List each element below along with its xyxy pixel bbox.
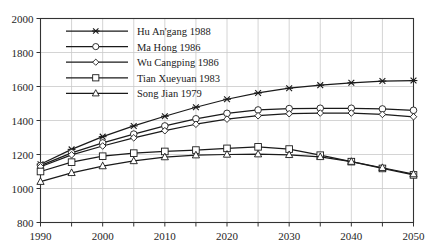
x-tick-label: 2040 bbox=[340, 230, 363, 242]
y-tick-label: 1600 bbox=[12, 81, 35, 93]
y-tick-label: 2000 bbox=[12, 13, 35, 25]
chart-background bbox=[0, 0, 425, 250]
marker-square bbox=[99, 153, 106, 160]
x-tick-label: 2000 bbox=[92, 230, 115, 242]
x-tick-label: 2030 bbox=[278, 230, 301, 242]
legend-label: Tian Xueyuan 1983 bbox=[137, 73, 220, 84]
marker-circle bbox=[93, 44, 99, 50]
y-tick-label: 1800 bbox=[12, 47, 35, 59]
legend-label: Ma Hong 1986 bbox=[137, 42, 201, 53]
x-tick-label: 2050 bbox=[403, 230, 425, 242]
marker-square bbox=[37, 168, 44, 175]
x-tick-label: 1990 bbox=[30, 230, 53, 242]
marker-square bbox=[255, 144, 262, 151]
legend-label: Song Jian 1979 bbox=[137, 88, 202, 99]
x-tick-label: 2010 bbox=[154, 230, 177, 242]
marker-square bbox=[130, 150, 137, 157]
x-tick-label: 2020 bbox=[216, 230, 239, 242]
y-tick-label: 1200 bbox=[12, 149, 35, 161]
marker-square bbox=[93, 75, 99, 81]
marker-square bbox=[68, 159, 75, 166]
y-tick-label: 1000 bbox=[12, 183, 35, 195]
population-projection-chart: 800100012001400160018002000 199020002010… bbox=[0, 0, 425, 250]
chart-canvas: 800100012001400160018002000 199020002010… bbox=[0, 0, 425, 250]
legend-label: Wu Cangping 1986 bbox=[137, 57, 219, 68]
marker-circle bbox=[410, 107, 417, 114]
legend-label: Hu An'gang 1988 bbox=[137, 26, 211, 37]
y-tick-label: 1400 bbox=[12, 115, 35, 127]
y-tick-label: 800 bbox=[17, 217, 34, 229]
